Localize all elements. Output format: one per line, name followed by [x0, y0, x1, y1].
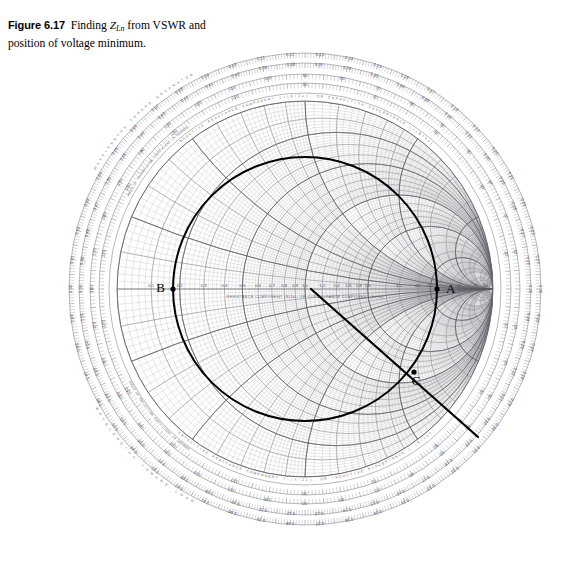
ring-tick — [492, 407, 496, 410]
angle-spoke — [305, 289, 399, 452]
ring-caption-char: A — [98, 412, 103, 417]
ring-tick — [367, 480, 369, 485]
ring-tick — [515, 219, 520, 221]
ring-tick — [522, 330, 527, 331]
ring-caption-char: E — [105, 422, 110, 427]
ring-label: 110 — [228, 84, 237, 91]
ring-tick — [111, 358, 116, 360]
ring-tick — [129, 409, 133, 412]
ring-caption-char: E — [235, 106, 239, 111]
ring-tick — [72, 327, 77, 328]
ring-tick — [485, 434, 489, 437]
ring-tick — [162, 102, 165, 106]
ring-tick — [434, 454, 437, 458]
ring-tick — [147, 418, 151, 421]
ring-tick — [479, 426, 483, 429]
ring-tick — [97, 233, 102, 234]
ring-tick — [435, 106, 438, 110]
ring-tick — [172, 468, 175, 472]
ring-tick — [113, 405, 117, 408]
ring-tick — [521, 336, 526, 337]
ring-label: 0.40 — [227, 509, 237, 517]
ring-tick — [452, 426, 456, 429]
ring-caption-char: I — [354, 101, 356, 105]
ring-tick — [174, 469, 177, 473]
ring-tick — [414, 116, 417, 120]
ring-tick — [443, 100, 446, 104]
ring-tick — [530, 341, 535, 342]
reactance-arc — [145, 289, 572, 556]
ring-tick — [334, 497, 335, 502]
ring-tick — [228, 475, 230, 480]
ring-tick — [367, 93, 369, 98]
ring-tick — [407, 88, 409, 92]
ring-caption-char: N — [110, 140, 115, 145]
ring-caption-char: G — [119, 441, 124, 446]
ring-tick — [357, 90, 358, 95]
ring-tick — [470, 171, 474, 174]
ring-tick — [527, 352, 532, 353]
ring-tick — [221, 473, 223, 478]
ring-tick — [343, 517, 344, 522]
ring-tick — [254, 69, 255, 74]
ring-tick — [363, 502, 364, 507]
ring-label: -110 — [226, 486, 236, 494]
ring-tick — [506, 195, 511, 197]
ring-tick — [389, 80, 391, 85]
ring-tick — [387, 473, 389, 478]
ring-tick — [463, 162, 467, 165]
ring-tick — [202, 111, 205, 115]
ring-tick — [224, 506, 226, 511]
ring-tick — [245, 92, 246, 97]
ring-tick — [104, 165, 108, 168]
ring-tick — [333, 508, 334, 513]
ring-label: 0.47 — [92, 201, 100, 211]
ring-caption-char: - — [411, 445, 414, 449]
ring-label: 0.02 — [83, 340, 90, 350]
ring-label: 10 — [513, 249, 519, 255]
ring-tick — [364, 481, 365, 486]
angle-spoke — [139, 289, 305, 377]
ring-tick — [101, 383, 106, 385]
ring-tick — [79, 222, 84, 223]
ring-tick — [113, 361, 118, 363]
ring-tick — [391, 492, 393, 497]
ring-tick — [148, 142, 152, 145]
ring-tick — [172, 106, 175, 110]
ring-tick — [115, 368, 120, 370]
ring-tick — [516, 355, 521, 356]
ring-tick — [171, 479, 174, 483]
ring-tick — [193, 116, 196, 120]
ring-tick — [249, 513, 250, 518]
ring-caption-char: E — [201, 123, 206, 128]
ring-tick — [168, 464, 171, 468]
ring-caption-char: , — [310, 94, 311, 98]
ring-caption-char: N — [164, 88, 169, 93]
ring-label: 0.00 — [78, 284, 83, 293]
ring-tick — [522, 333, 527, 334]
ring-tick — [380, 98, 382, 103]
ring-tick — [98, 198, 103, 200]
ring-tick — [481, 172, 485, 175]
ring-caption-char: / — [299, 478, 300, 482]
ring-tick — [490, 166, 494, 169]
ring-tick — [92, 259, 97, 260]
ring-tick — [439, 136, 442, 140]
ring-tick — [497, 374, 502, 376]
ring-tick — [246, 82, 247, 87]
ring-tick — [177, 103, 180, 107]
ring-tick — [499, 236, 504, 237]
ring-tick — [485, 141, 489, 144]
ring-tick — [106, 368, 111, 370]
ring-tick — [445, 102, 448, 106]
ring-tick — [146, 115, 149, 119]
ring-tick — [450, 429, 454, 432]
ring-tick — [107, 344, 112, 345]
ring-tick — [489, 205, 494, 207]
ring-tick — [115, 188, 119, 190]
ring-tick — [107, 160, 111, 163]
axis-tick-label: 1.8 — [356, 283, 362, 288]
ring-tick — [513, 318, 518, 319]
ring-tick — [217, 492, 219, 497]
ring-tick — [525, 216, 530, 218]
